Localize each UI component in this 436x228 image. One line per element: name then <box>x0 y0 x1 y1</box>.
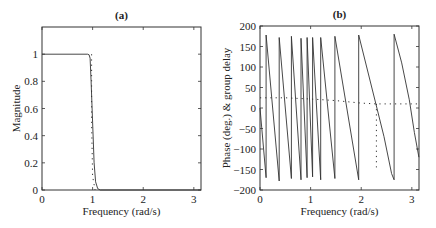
x-tick-label: 0 <box>257 193 263 205</box>
y-tick-label: 0 <box>251 102 257 114</box>
plot-frame <box>260 26 419 190</box>
y-tick-label: 100 <box>240 61 257 73</box>
y-tick-label: 0.2 <box>24 157 38 169</box>
chart-title: (a) <box>115 9 128 22</box>
chart-a: 012300.20.40.60.81(a)Frequency (rad/s)Ma… <box>10 9 201 218</box>
y-tick-label: −150 <box>233 164 256 176</box>
y-axis-label: Magnitude <box>10 85 22 133</box>
y-tick-label: 200 <box>240 20 257 32</box>
x-axis-label: Frequency (rad/s) <box>83 205 161 218</box>
y-tick-label: 0.6 <box>24 103 38 115</box>
y-tick-label: 150 <box>240 41 257 53</box>
y-tick-label: 0.4 <box>24 130 38 142</box>
y-tick-label: 0 <box>33 184 39 196</box>
figure: 012300.20.40.60.81(a)Frequency (rad/s)Ma… <box>0 0 436 228</box>
chart-title: (b) <box>333 8 347 21</box>
y-tick-label: −50 <box>239 123 257 135</box>
series-magnitude <box>42 54 201 190</box>
y-axis-label: Phase (deg.) & group delay <box>220 47 233 168</box>
y-tick-label: 0.8 <box>24 75 38 87</box>
y-tick-label: −200 <box>233 184 256 196</box>
x-tick-label: 3 <box>191 193 197 205</box>
plot-frame <box>42 27 201 190</box>
x-tick-label: 2 <box>358 193 364 205</box>
y-tick-label: −100 <box>233 143 256 155</box>
chart-b: 0123−200−150−100−50050100150200(b)Freque… <box>220 8 419 218</box>
series-phase <box>260 34 419 181</box>
x-tick-label: 0 <box>39 193 45 205</box>
x-tick-label: 2 <box>140 193 146 205</box>
x-tick-label: 1 <box>308 193 314 205</box>
x-axis-label: Frequency (rad/s) <box>301 205 379 218</box>
y-tick-label: 1 <box>33 48 39 60</box>
x-tick-label: 1 <box>90 193 96 205</box>
series-group-delay <box>260 98 419 104</box>
x-tick-label: 3 <box>409 193 415 205</box>
y-tick-label: 50 <box>245 82 257 94</box>
